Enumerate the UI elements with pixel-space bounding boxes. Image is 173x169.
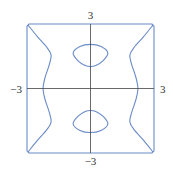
- x-axis-max-label: 3: [160, 83, 166, 95]
- x-axis-min-label: −3: [10, 83, 22, 95]
- y-axis-min-label: −3: [85, 155, 97, 167]
- y-axis-max-label: 3: [88, 9, 94, 21]
- implicit-curve-plot: −3 3 3 −3: [0, 0, 173, 169]
